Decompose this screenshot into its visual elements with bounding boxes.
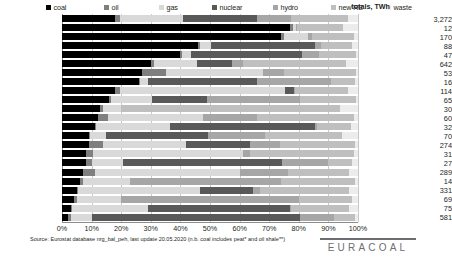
- bar-row[interactable]: [62, 178, 358, 185]
- row-total-value: 70: [392, 133, 452, 140]
- bar-row[interactable]: [62, 51, 358, 58]
- bar-segment-coal: [62, 42, 198, 49]
- bar-row[interactable]: [62, 132, 358, 139]
- bar-segment-new-RE: [331, 78, 355, 85]
- bar-row[interactable]: [62, 87, 358, 94]
- bar-segment-coal: [62, 178, 80, 185]
- bar-segment-oil: [86, 150, 93, 157]
- bar-segment-gas: [166, 69, 264, 76]
- bar-row[interactable]: [62, 187, 358, 194]
- bar-row[interactable]: [62, 42, 358, 49]
- row-total-value: 53: [392, 70, 452, 77]
- bar-segment-coal: [62, 132, 89, 139]
- totals-column-header: totals, TWh: [351, 2, 390, 11]
- row-total-value: 88: [392, 43, 452, 50]
- bar-row[interactable]: [62, 214, 358, 221]
- x-axis-tick-label: 100%: [338, 224, 378, 233]
- bar-segment-waste: [354, 33, 358, 40]
- bar-segment-gas: [103, 141, 186, 148]
- bar-segment-nuclear: [148, 205, 290, 212]
- bar-row[interactable]: [62, 205, 358, 212]
- bar-segment-waste: [343, 24, 358, 31]
- bar-segment-new-RE: [291, 205, 349, 212]
- legend-item-gas[interactable]: gas: [159, 2, 178, 13]
- bar-segment-gas: [93, 150, 242, 157]
- bar-segment-waste: [356, 69, 357, 76]
- bar-segment-nuclear: [211, 42, 315, 49]
- row-total-value: 170: [392, 34, 452, 41]
- bar-segment-gas: [78, 187, 199, 194]
- bar-segment-gas: [140, 78, 147, 85]
- legend-label: waste: [394, 4, 412, 12]
- bar-row[interactable]: [62, 33, 358, 40]
- bar-segment-hydro: [253, 187, 260, 194]
- legend-item-hydro[interactable]: hydro: [273, 2, 298, 13]
- bar-segment-new-RE: [280, 141, 355, 148]
- bar-segment-gas: [120, 87, 286, 94]
- euracoal-logo: EURACOAL: [320, 238, 416, 253]
- bar-segment-nuclear: [191, 51, 302, 58]
- bar-segment-waste: [349, 205, 358, 212]
- chart-legend: coaloilgasnuclearhydronew REwaste: [46, 2, 376, 13]
- bar-row[interactable]: [62, 69, 358, 76]
- bar-row[interactable]: [62, 60, 358, 67]
- bar-row[interactable]: [62, 150, 358, 157]
- bar-segment-new-RE: [250, 150, 354, 157]
- bar-segment-waste: [349, 187, 358, 194]
- bar-row[interactable]: [62, 141, 358, 148]
- bar-row[interactable]: [62, 114, 358, 121]
- bar-segment-coal: [62, 169, 83, 176]
- bar-segment-gas: [72, 205, 147, 212]
- bar-segment-coal: [62, 150, 86, 157]
- bar-row[interactable]: [62, 169, 358, 176]
- bar-segment-new-RE: [243, 60, 347, 67]
- bar-segment-nuclear: [148, 78, 258, 85]
- legend-label: hydro: [281, 4, 298, 12]
- bar-segment-coal: [62, 123, 95, 130]
- legend-item-nuclear[interactable]: nuclear: [212, 2, 242, 13]
- bar-segment-coal: [62, 33, 281, 40]
- bar-segment-waste: [356, 51, 357, 58]
- bar-segment-nuclear: [200, 187, 253, 194]
- bar-segment-waste: [346, 60, 358, 67]
- legend-swatch-icon: [46, 5, 51, 10]
- row-total-value: 27: [392, 160, 452, 167]
- bar-segment-hydro: [263, 69, 284, 76]
- bar-row[interactable]: [62, 15, 358, 22]
- bar-segment-new-RE: [321, 42, 352, 49]
- bar-segment-hydro: [121, 196, 299, 203]
- source-note: Source: Eurostat database nrg_bal_peh, l…: [30, 236, 285, 243]
- bar-segment-hydro: [207, 96, 300, 103]
- bar-segment-new-RE: [260, 187, 349, 194]
- bar-segment-nuclear: [92, 214, 301, 221]
- bar-row[interactable]: [62, 196, 358, 203]
- bar-row[interactable]: [62, 123, 358, 130]
- bar-row[interactable]: [62, 105, 358, 112]
- bar-segment-hydro: [208, 132, 264, 139]
- row-total-value: 75: [392, 205, 452, 212]
- bar-segment-new-RE: [291, 15, 347, 22]
- bar-segment-nuclear: [285, 87, 294, 94]
- bar-segment-nuclear: [197, 60, 233, 67]
- bar-row[interactable]: [62, 78, 358, 85]
- legend-swatch-icon: [331, 5, 336, 10]
- legend-item-oil[interactable]: oil: [104, 2, 118, 13]
- bar-row[interactable]: [62, 96, 358, 103]
- bar-segment-hydro: [130, 178, 281, 185]
- bar-segment-gas: [95, 169, 240, 176]
- bar-segment-waste: [348, 15, 358, 22]
- bar-segment-coal: [62, 78, 139, 85]
- bar-segment-waste: [354, 114, 358, 121]
- bar-segment-hydro: [257, 78, 331, 85]
- bar-segment-new-RE: [317, 123, 351, 130]
- logo-text: EURACOAL: [320, 242, 416, 253]
- bar-segment-oil: [83, 169, 95, 176]
- x-axis-line: [62, 222, 358, 223]
- bar-segment-hydro: [302, 51, 320, 58]
- bar-row[interactable]: [62, 159, 358, 166]
- bar-segment-hydro: [257, 15, 291, 22]
- legend-item-coal[interactable]: coal: [46, 2, 66, 13]
- bar-row[interactable]: [62, 24, 358, 31]
- bar-segment-waste: [342, 132, 358, 139]
